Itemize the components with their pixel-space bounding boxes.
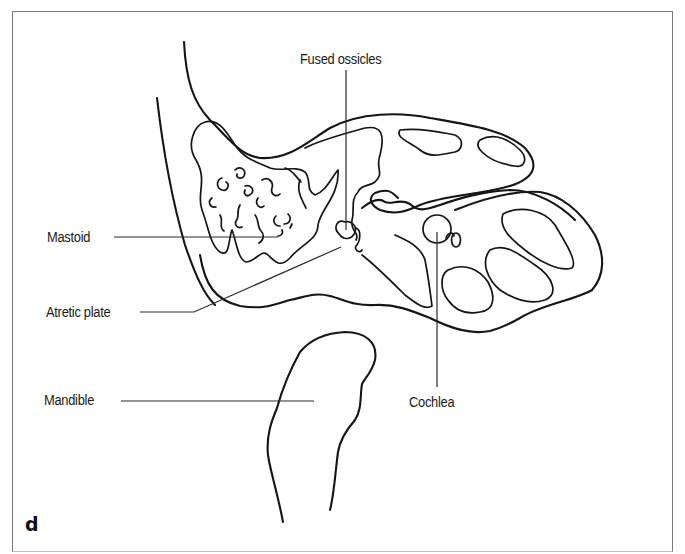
panel-letter: d xyxy=(25,513,39,535)
upper-cell-1 xyxy=(399,129,461,155)
inner-compartment-3 xyxy=(442,267,493,313)
ear-anatomy-drawing xyxy=(0,0,685,554)
label-mastoid: Mastoid xyxy=(47,229,90,245)
mastoid-cell-squiggles xyxy=(209,168,306,243)
label-fused-ossicles: Fused ossicles xyxy=(300,51,381,67)
temporal-contour xyxy=(184,42,533,212)
label-cochlea: Cochlea xyxy=(409,394,454,410)
inner-compartment-1 xyxy=(502,210,574,269)
inner-compartment-2 xyxy=(485,248,552,302)
middle-ear-cavity xyxy=(305,127,382,240)
label-mandible: Mandible xyxy=(44,392,94,408)
cochlea-small-loop xyxy=(452,233,461,247)
label-atretic-plate: Atretic plate xyxy=(46,304,110,320)
skin-contour-outer xyxy=(157,98,215,305)
mandible-outline xyxy=(268,332,376,522)
medial-wall xyxy=(362,235,432,307)
